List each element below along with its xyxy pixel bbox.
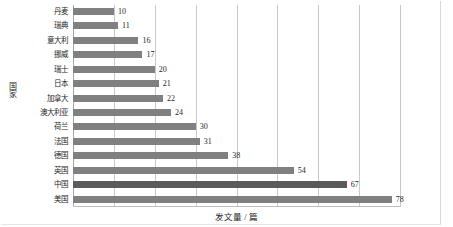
category-label-13: 中国 [54, 178, 68, 191]
bar-value-label-13: 67 [351, 178, 359, 191]
bar-13[interactable] [73, 181, 347, 188]
bar-value-label-9: 30 [200, 120, 208, 133]
bar-11[interactable] [73, 152, 228, 159]
bar-row: 丹麦10 [73, 5, 400, 19]
bar-row: 澳大利亚24 [73, 106, 400, 120]
category-label-11: 德国 [54, 149, 68, 162]
category-label-12: 英国 [54, 164, 68, 177]
plot-area: 丹麦10瑞典11意大利16挪威17瑞士20日本21加拿大22澳大利亚24荷兰30… [73, 5, 400, 207]
bar-8[interactable] [73, 109, 171, 116]
bar-14[interactable] [73, 196, 392, 203]
bar-row: 瑞典11 [73, 19, 400, 33]
category-label-9: 荷兰 [54, 120, 68, 133]
bar-12[interactable] [73, 167, 294, 174]
gridline-80 [400, 5, 401, 207]
bar-chart-figure: 国家 丹麦10瑞典11意大利16挪威17瑞士20日本21加拿大22澳大利亚24荷… [0, 0, 453, 227]
bar-value-label-2: 11 [122, 19, 130, 32]
bar-value-label-1: 10 [118, 5, 126, 18]
category-label-7: 加拿大 [47, 92, 68, 105]
x-axis-title: 发文量 / 篇 [73, 210, 400, 222]
bar-row: 英国54 [73, 164, 400, 178]
category-label-2: 瑞典 [54, 19, 68, 32]
bar-row: 美国78 [73, 193, 400, 207]
bar-6[interactable] [73, 80, 159, 87]
bar-10[interactable] [73, 138, 200, 145]
category-label-4: 挪威 [54, 48, 68, 61]
y-axis-title: 国家 [2, 82, 16, 98]
bar-row: 挪威17 [73, 48, 400, 62]
bar-value-label-10: 31 [204, 135, 212, 148]
bar-value-label-7: 22 [167, 92, 175, 105]
category-label-5: 瑞士 [54, 63, 68, 76]
category-label-6: 日本 [54, 77, 68, 90]
bar-rows: 丹麦10瑞典11意大利16挪威17瑞士20日本21加拿大22澳大利亚24荷兰30… [73, 5, 400, 207]
category-label-10: 法国 [54, 135, 68, 148]
bar-9[interactable] [73, 123, 196, 130]
bar-4[interactable] [73, 51, 142, 58]
bar-row: 意大利16 [73, 34, 400, 48]
bar-row: 瑞士20 [73, 63, 400, 77]
bar-row: 加拿大22 [73, 92, 400, 106]
bar-3[interactable] [73, 37, 138, 44]
category-label-3: 意大利 [47, 34, 68, 47]
category-label-8: 澳大利亚 [40, 106, 68, 119]
bar-5[interactable] [73, 66, 155, 73]
bar-value-label-14: 78 [396, 193, 404, 206]
bar-value-label-8: 24 [175, 106, 183, 119]
bar-value-label-4: 17 [146, 48, 154, 61]
bar-value-label-12: 54 [298, 164, 306, 177]
bar-7[interactable] [73, 95, 163, 102]
bar-value-label-3: 16 [142, 34, 150, 47]
bar-value-label-6: 21 [163, 77, 171, 90]
bar-value-label-5: 20 [159, 63, 167, 76]
category-label-1: 丹麦 [54, 5, 68, 18]
bar-row: 法国31 [73, 135, 400, 149]
bar-row: 中国67 [73, 178, 400, 192]
bar-row: 德国38 [73, 149, 400, 163]
bar-row: 日本21 [73, 77, 400, 91]
bar-1[interactable] [73, 8, 114, 15]
category-label-14: 美国 [54, 193, 68, 206]
bar-2[interactable] [73, 22, 118, 29]
bar-row: 荷兰30 [73, 120, 400, 134]
bar-value-label-11: 38 [232, 149, 240, 162]
